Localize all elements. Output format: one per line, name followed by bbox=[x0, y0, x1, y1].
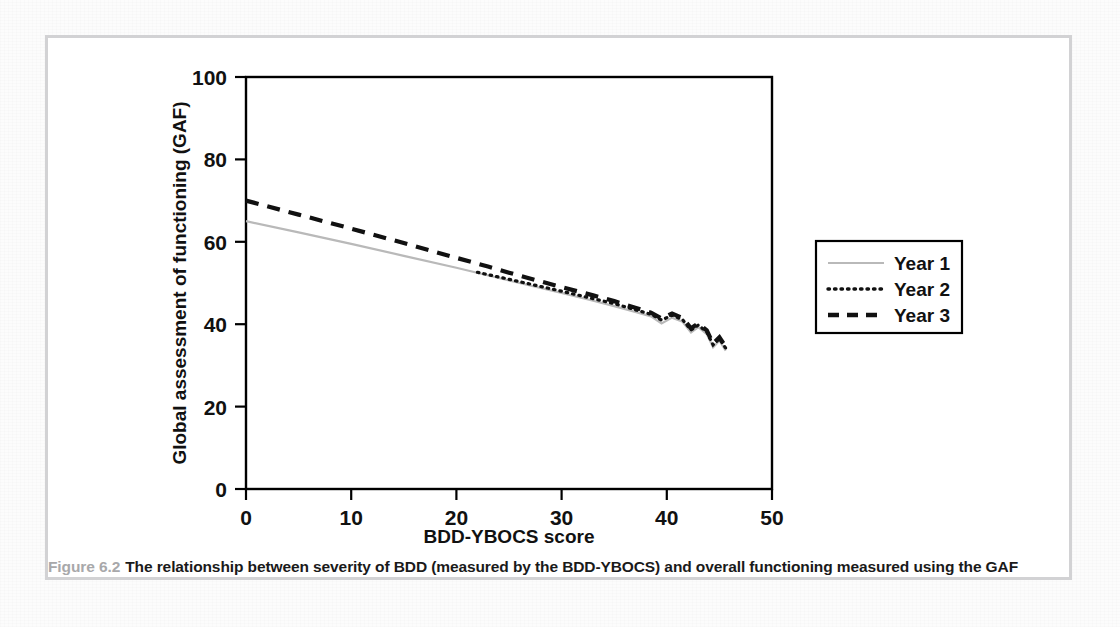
legend-label-year-3: Year 3 bbox=[894, 305, 950, 326]
line-chart: 01020304050 020406080100 BDD-YBOCS score… bbox=[0, 0, 1120, 560]
x-tick-label: 50 bbox=[760, 506, 783, 529]
figure-number: Figure 6.2 bbox=[48, 558, 120, 575]
x-tick-label: 10 bbox=[340, 506, 363, 529]
y-axis-ticks bbox=[235, 77, 246, 489]
y-tick-label: 100 bbox=[192, 66, 227, 89]
x-tick-label: 40 bbox=[655, 506, 678, 529]
chart-area: 01020304050 020406080100 BDD-YBOCS score… bbox=[0, 0, 1120, 560]
y-tick-label: 80 bbox=[204, 148, 227, 171]
chart-legend: Year 1Year 2Year 3 bbox=[816, 241, 962, 333]
y-tick-label: 60 bbox=[204, 231, 227, 254]
legend-label-year-1: Year 1 bbox=[894, 253, 950, 274]
y-axis-tick-labels: 020406080100 bbox=[192, 66, 227, 501]
plot-frame bbox=[246, 77, 772, 489]
y-axis-title: Global assessment of functioning (GAF) bbox=[169, 101, 190, 464]
x-axis-ticks bbox=[246, 489, 772, 500]
y-tick-label: 0 bbox=[215, 478, 227, 501]
y-tick-label: 40 bbox=[204, 313, 227, 336]
figure-caption: Figure 6.2The relationship between sever… bbox=[48, 556, 1068, 578]
y-tick-label: 20 bbox=[204, 396, 227, 419]
x-tick-label: 0 bbox=[240, 506, 252, 529]
figure-caption-text: The relationship between severity of BDD… bbox=[125, 558, 1018, 575]
x-axis-title: BDD-YBOCS score bbox=[423, 526, 594, 547]
legend-label-year-2: Year 2 bbox=[894, 279, 950, 300]
